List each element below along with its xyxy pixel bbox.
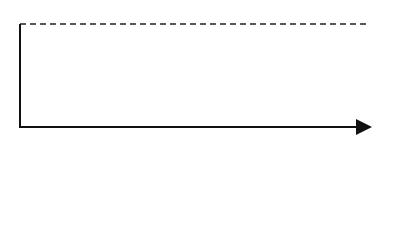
diagram-canvas — [0, 0, 396, 249]
phoneme-lattice-diagram — [0, 0, 396, 249]
